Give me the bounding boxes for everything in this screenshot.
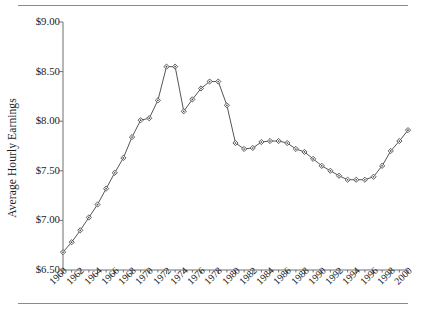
data-point-center <box>235 142 237 144</box>
data-point-center <box>114 172 116 174</box>
data-point-center <box>217 81 219 83</box>
data-point-center <box>321 165 323 167</box>
data-point-center <box>286 142 288 144</box>
data-line-average-hourly-earnings <box>63 67 408 253</box>
data-point-center <box>338 175 340 177</box>
data-point-center <box>140 119 142 121</box>
data-point-center <box>312 158 314 160</box>
data-point-center <box>105 188 107 190</box>
data-point-center <box>399 140 401 142</box>
data-point-center <box>200 88 202 90</box>
figure-root: Average Hourly Earnings $6.50$7.00$7.50$… <box>0 0 422 315</box>
data-point-center <box>79 229 81 231</box>
data-point-center <box>373 176 375 178</box>
data-point-center <box>183 110 185 112</box>
data-point-center <box>295 148 297 150</box>
data-point-center <box>355 179 357 181</box>
data-point-center <box>62 251 64 253</box>
data-point-center <box>174 66 176 68</box>
data-point-center <box>364 179 366 181</box>
data-point-center <box>407 129 409 131</box>
data-point-center <box>390 150 392 152</box>
data-point-center <box>123 157 125 159</box>
data-point-center <box>88 217 90 219</box>
data-point-center <box>269 140 271 142</box>
data-point-center <box>330 170 332 172</box>
data-point-center <box>243 148 245 150</box>
data-point-center <box>278 140 280 142</box>
data-point-center <box>71 241 73 243</box>
data-point-center <box>226 104 228 106</box>
data-point-center <box>192 99 194 101</box>
data-point-center <box>157 100 159 102</box>
data-point-center <box>252 147 254 149</box>
data-point-center <box>209 81 211 83</box>
data-point-center <box>148 117 150 119</box>
data-point-center <box>166 66 168 68</box>
data-point-center <box>131 136 133 138</box>
data-point-center <box>261 141 263 143</box>
data-point-center <box>304 151 306 153</box>
data-point-center <box>347 179 349 181</box>
data-point-center <box>381 165 383 167</box>
data-point-center <box>97 204 99 206</box>
